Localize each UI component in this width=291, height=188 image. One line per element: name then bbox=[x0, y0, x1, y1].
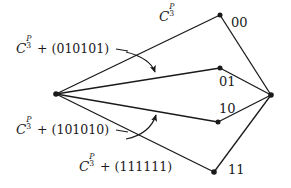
coset-subscript: 3 bbox=[26, 123, 31, 131]
edge-apex-to-01 bbox=[56, 68, 220, 94]
mid-upper-vertex-01 bbox=[218, 66, 223, 71]
coset-subscript: 3 bbox=[26, 42, 31, 50]
upper-curved-arrow bbox=[126, 52, 155, 72]
lower-coset-label: CP3 + (101010) bbox=[16, 121, 109, 136]
coset-offset: + (010101) bbox=[33, 41, 109, 56]
upper-label-leader bbox=[116, 49, 128, 51]
coset-c-glyph: C bbox=[79, 158, 89, 174]
bottom-coset-label: CP3 + (111111) bbox=[79, 158, 172, 173]
top-coset-label: CP3 bbox=[159, 8, 176, 23]
coset-sub-sup: P3 bbox=[89, 158, 96, 171]
coset-c-glyph: C bbox=[16, 121, 26, 137]
coset-sub-sup: P3 bbox=[26, 40, 33, 53]
vertex-label-00: 00 bbox=[231, 16, 248, 29]
coset-subscript: 3 bbox=[89, 160, 94, 168]
edge-apex-to-10 bbox=[56, 94, 218, 122]
vertex-label-01: 01 bbox=[219, 75, 236, 88]
coset-offset: + (111111) bbox=[96, 159, 172, 174]
left-apex-vertex bbox=[53, 91, 59, 97]
upper-coset-label: CP3 + (010101) bbox=[16, 40, 109, 55]
coset-c-glyph: C bbox=[16, 40, 26, 56]
lower-label-leader bbox=[116, 130, 128, 132]
coset-c-glyph: C bbox=[159, 8, 169, 24]
vertex-label-10: 10 bbox=[219, 102, 236, 115]
coset-graph-figure: CP3 CP3 + (010101) CP3 + (101010) CP3 + … bbox=[0, 0, 291, 188]
coset-offset: + (101010) bbox=[33, 122, 109, 137]
top-vertex-00 bbox=[218, 13, 223, 18]
right-apex-vertex bbox=[268, 92, 274, 98]
vertex-label-11: 11 bbox=[228, 163, 245, 176]
coset-sub-sup: P3 bbox=[26, 121, 33, 134]
coset-subscript: 3 bbox=[169, 10, 174, 18]
coset-sub-sup: P3 bbox=[169, 8, 176, 21]
bottom-vertex-11 bbox=[211, 169, 217, 175]
mid-lower-vertex-10 bbox=[216, 120, 221, 125]
